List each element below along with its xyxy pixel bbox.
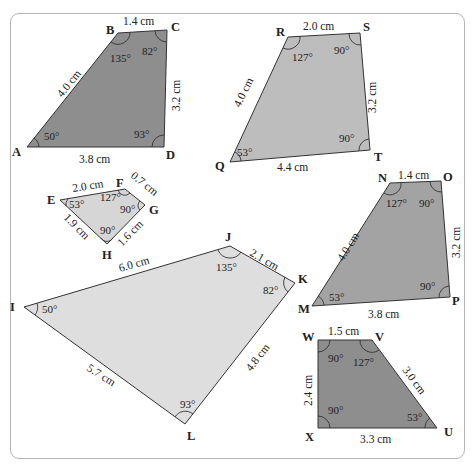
side-pm: 3.8 cm: [368, 308, 399, 320]
side-kl: 4.8 cm: [243, 341, 272, 373]
vertex-p: P: [452, 294, 460, 308]
angle-u: 53°: [407, 411, 422, 423]
quadrilateral-qrst: R S T Q 2.0 cm 4.0 cm 3.2 cm 4.4 cm 53° …: [215, 20, 383, 173]
angle-l: 93°: [180, 398, 195, 410]
vertex-d: D: [166, 148, 175, 162]
angle-b: 135°: [110, 52, 131, 64]
vertex-e: E: [47, 193, 55, 207]
side-xw: 2.4 cm: [302, 375, 314, 406]
quadrilateral-wvux: W V U X 1.5 cm 3.0 cm 3.3 cm 2.4 cm 90° …: [302, 325, 453, 445]
side-no: 1.4 cm: [398, 169, 429, 181]
angle-k: 82°: [263, 284, 278, 296]
angle-o: 90°: [419, 197, 434, 209]
angle-c: 82°: [142, 45, 157, 57]
vertex-b: B: [106, 23, 114, 37]
side-rs: 2.0 cm: [303, 20, 334, 32]
side-wv: 1.5 cm: [328, 325, 359, 337]
vertex-k: K: [298, 272, 308, 286]
side-ux: 3.3 cm: [360, 433, 391, 445]
side-cd: 3.2 cm: [170, 80, 182, 111]
vertex-i: I: [10, 300, 15, 314]
vertex-j: J: [225, 230, 231, 244]
vertex-r: R: [276, 25, 286, 39]
vertex-q: Q: [215, 159, 225, 173]
vertex-g: G: [149, 203, 159, 217]
quadrilateral-abcd: A B C D 1.4 cm 4.0 cm 3.2 cm 3.8 cm 50° …: [12, 15, 182, 165]
side-fg: 0.7 cm: [129, 169, 161, 198]
angle-r: 127°: [292, 51, 313, 63]
side-qr: 4.0 cm: [231, 75, 256, 108]
shape-ijkl: [24, 246, 295, 424]
vertex-m: M: [298, 302, 310, 316]
angle-s: 90°: [334, 44, 349, 56]
vertex-a: A: [12, 145, 21, 159]
side-tq: 4.4 cm: [277, 161, 308, 173]
vertex-f: F: [116, 176, 124, 190]
side-da: 3.8 cm: [79, 153, 110, 165]
vertex-s: S: [363, 20, 370, 34]
angle-x: 90°: [328, 404, 343, 416]
angle-m: 53°: [329, 291, 344, 303]
angle-p: 90°: [420, 280, 435, 292]
side-st: 3.2 cm: [366, 82, 378, 113]
quadrilateral-mnop: M N O P 1.4 cm 4.0 cm 3.2 cm 3.8 cm 53° …: [298, 169, 462, 320]
angle-n: 127°: [386, 197, 407, 209]
side-bc: 1.4 cm: [123, 15, 154, 27]
vertex-o: O: [443, 170, 453, 184]
quadrilateral-efgh: E F G H 2.0 cm 0.7 cm 1.6 cm 1.9 cm 53° …: [47, 169, 161, 262]
vertex-n: N: [378, 171, 387, 185]
vertex-t: T: [374, 150, 383, 164]
vertex-v: V: [375, 330, 384, 344]
vertex-l: L: [187, 429, 195, 443]
vertex-w: W: [302, 330, 315, 344]
vertex-u: U: [444, 425, 453, 439]
angle-t: 90°: [339, 132, 354, 144]
quadrilateral-ijkl: I J K L 6.0 cm 2.1 cm 4.8 cm 5.7 cm 50° …: [10, 230, 308, 443]
angle-a: 50°: [44, 130, 59, 142]
angle-v: 127°: [353, 356, 374, 368]
angle-f: 127°: [100, 191, 121, 203]
side-op: 3.2 cm: [450, 227, 462, 258]
vertex-h: H: [102, 248, 112, 262]
angle-h: 90°: [100, 224, 115, 236]
angle-q: 53°: [237, 146, 252, 158]
angle-d: 93°: [134, 128, 149, 140]
angle-w: 90°: [328, 352, 343, 364]
angle-j: 135°: [216, 261, 237, 273]
angle-g: 90°: [120, 203, 135, 215]
angle-i: 50°: [42, 303, 57, 315]
quadrilaterals-diagram: A B C D 1.4 cm 4.0 cm 3.2 cm 3.8 cm 50° …: [0, 0, 473, 466]
vertex-c: C: [171, 20, 180, 34]
angle-e: 53°: [69, 198, 84, 210]
vertex-x: X: [305, 430, 314, 444]
